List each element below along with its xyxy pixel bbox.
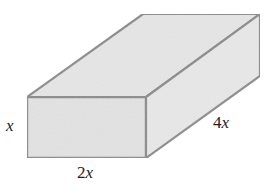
depth-variable: x <box>222 113 230 132</box>
depth-label: 4x <box>213 114 229 131</box>
rectangular-prism-diagram <box>0 0 268 188</box>
width-variable: x <box>86 163 94 182</box>
height-label: x <box>6 117 14 134</box>
depth-coefficient: 4 <box>213 113 222 132</box>
width-label: 2x <box>77 164 93 181</box>
height-variable: x <box>6 116 14 135</box>
width-coefficient: 2 <box>77 163 86 182</box>
front-face <box>27 97 146 158</box>
